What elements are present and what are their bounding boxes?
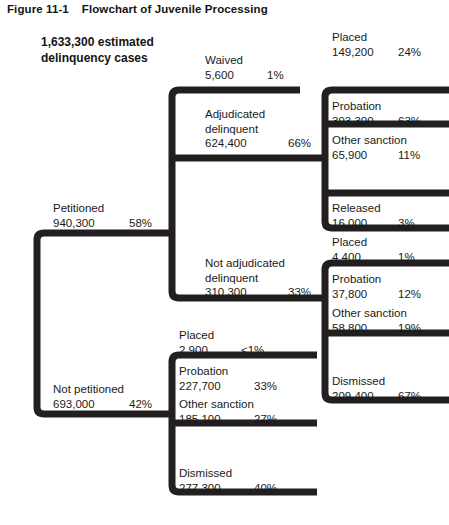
node-nadj-other-sanction-name: Other sanction [332, 306, 447, 321]
node-not-adjudicated: Not adjudicated delinquent 310,300 33% [205, 256, 330, 300]
node-adjudicated-value: 624,400 [205, 136, 247, 151]
node-adj-placed-percent: 24% [398, 45, 421, 60]
node-waived-percent: 1% [267, 68, 284, 83]
node-adj-released-percent: 3% [398, 216, 415, 231]
node-waived: Waived 5,600 1% [205, 53, 310, 82]
node-nadj-placed: Placed 4,400 1% [332, 235, 447, 264]
node-adj-other-sanction-value: 65,900 [332, 148, 367, 163]
node-petitioned-name: Petitioned [53, 201, 173, 216]
node-not-adjudicated-percent: 33% [288, 285, 311, 300]
node-nadj-probation-percent: 12% [398, 287, 421, 302]
node-np-dismissed-name: Dismissed [179, 466, 309, 481]
node-np-other-sanction-name: Other sanction [179, 397, 309, 412]
figure-container: Figure 11-1Flowchart of Juvenile Process… [0, 0, 449, 525]
node-adj-probation: Probation 393,300 63% [332, 99, 447, 128]
node-np-other-sanction: Other sanction 185,100 27% [179, 397, 309, 426]
node-petitioned: Petitioned 940,300 58% [53, 201, 173, 230]
node-nadj-probation: Probation 37,800 12% [332, 272, 447, 301]
node-waived-value: 5,600 [205, 68, 234, 83]
node-np-placed-name: Placed [179, 328, 309, 343]
node-adj-released-value: 16,000 [332, 216, 367, 231]
node-adj-other-sanction-name: Other sanction [332, 133, 447, 148]
node-np-probation-percent: 33% [254, 379, 277, 394]
node-adj-released-name: Released [332, 201, 447, 216]
node-np-probation-name: Probation [179, 364, 309, 379]
node-adjudicated-percent: 66% [288, 136, 311, 151]
node-adjudicated-name-line1: Adjudicated [205, 107, 325, 122]
node-not-petitioned: Not petitioned 693,000 42% [53, 382, 183, 411]
node-np-dismissed-percent: 40% [254, 481, 277, 496]
node-nadj-other-sanction: Other sanction 58,800 19% [332, 306, 447, 335]
node-petitioned-percent: 58% [129, 216, 152, 231]
node-nadj-placed-name: Placed [332, 235, 447, 250]
node-adjudicated-name-line2: delinquent [205, 122, 325, 137]
node-np-placed-percent: <1% [241, 343, 264, 358]
node-nadj-placed-value: 4,400 [332, 250, 361, 265]
node-adj-probation-name: Probation [332, 99, 447, 114]
node-nadj-other-sanction-percent: 19% [398, 321, 421, 336]
node-nadj-dismissed: Dismissed 209,400 67% [332, 374, 447, 403]
node-not-petitioned-value: 693,000 [53, 397, 95, 412]
node-adj-other-sanction: Other sanction 65,900 11% [332, 133, 447, 162]
node-adj-placed-name: Placed [332, 30, 447, 45]
node-nadj-probation-name: Probation [332, 272, 447, 287]
node-nadj-dismissed-percent: 67% [398, 389, 421, 404]
node-petitioned-value: 940,300 [53, 216, 95, 231]
node-not-petitioned-percent: 42% [129, 397, 152, 412]
node-nadj-other-sanction-value: 58,800 [332, 321, 367, 336]
node-np-dismissed: Dismissed 277,300 40% [179, 466, 309, 495]
node-np-probation: Probation 227,700 33% [179, 364, 309, 393]
node-np-other-sanction-value: 185,100 [179, 412, 221, 427]
node-not-adjudicated-name-line1: Not adjudicated [205, 256, 330, 271]
node-nadj-probation-value: 37,800 [332, 287, 367, 302]
node-adj-probation-percent: 63% [398, 114, 421, 129]
node-adj-released: Released 16,000 3% [332, 201, 447, 230]
node-np-placed: Placed 2,900 <1% [179, 328, 309, 357]
node-adj-placed: Placed 149,200 24% [332, 30, 447, 59]
node-nadj-placed-percent: 1% [398, 250, 415, 265]
node-not-adjudicated-name-line2: delinquent [205, 271, 330, 286]
node-adjudicated: Adjudicated delinquent 624,400 66% [205, 107, 325, 151]
node-nadj-dismissed-value: 209,400 [332, 389, 374, 404]
node-np-dismissed-value: 277,300 [179, 481, 221, 496]
node-nadj-dismissed-name: Dismissed [332, 374, 447, 389]
node-np-other-sanction-percent: 27% [254, 412, 277, 427]
node-adj-other-sanction-percent: 11% [398, 148, 420, 163]
node-np-probation-value: 227,700 [179, 379, 221, 394]
node-adj-placed-value: 149,200 [332, 45, 374, 60]
node-adj-probation-value: 393,300 [332, 114, 374, 129]
node-np-placed-value: 2,900 [179, 343, 208, 358]
node-not-adjudicated-value: 310,300 [205, 285, 247, 300]
node-waived-name: Waived [205, 53, 310, 68]
node-not-petitioned-name: Not petitioned [53, 382, 183, 397]
